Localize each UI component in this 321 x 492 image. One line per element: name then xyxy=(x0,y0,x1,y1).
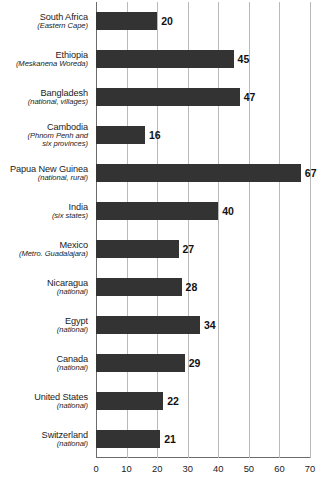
category-sublabel-line: (national) xyxy=(0,326,88,335)
category-sublabel: (six states) xyxy=(0,212,88,221)
bar xyxy=(96,50,234,68)
bar-value-label: 20 xyxy=(161,12,173,30)
bar-value-label: 34 xyxy=(204,316,216,334)
category-sublabel: (Phnom Penh andsix provinces) xyxy=(0,132,88,149)
bar xyxy=(96,164,301,182)
bar xyxy=(96,12,157,30)
category-sublabel-line: (six states) xyxy=(0,212,88,221)
category-sublabel-line: (national, rural) xyxy=(0,174,88,183)
category-sublabel: (Meskanena Woreda) xyxy=(0,60,88,69)
category-sublabel: (Metro. Guadalajara) xyxy=(0,250,88,259)
gridline-40 xyxy=(218,2,219,458)
gridline-30 xyxy=(188,2,189,458)
plot-frame xyxy=(96,2,310,458)
category-label: Nicaragua(national) xyxy=(0,278,92,297)
category-label: Bangladesh(national, villages) xyxy=(0,88,92,107)
bar-value-label: 28 xyxy=(186,278,198,296)
bar xyxy=(96,126,145,144)
bar-value-label: 47 xyxy=(244,88,256,106)
bar-value-label: 29 xyxy=(189,354,201,372)
bar-value-label: 45 xyxy=(238,50,250,68)
bar-value-label: 27 xyxy=(183,240,195,258)
x-tick-label-60: 60 xyxy=(274,463,284,474)
category-sublabel: (national) xyxy=(0,440,88,449)
x-tick-label-50: 50 xyxy=(244,463,254,474)
bar xyxy=(96,240,179,258)
gridline-10 xyxy=(127,2,128,458)
bar-value-label: 67 xyxy=(305,164,317,182)
bar xyxy=(96,278,182,296)
x-tick-label-20: 20 xyxy=(152,463,162,474)
category-sublabel: (national, rural) xyxy=(0,174,88,183)
category-label: Mexico(Metro. Guadalajara) xyxy=(0,240,92,259)
category-sublabel: (Eastern Cape) xyxy=(0,22,88,31)
x-tick-label-30: 30 xyxy=(182,463,192,474)
category-sublabel-line: (national) xyxy=(0,364,88,373)
category-sublabel-line: (Eastern Cape) xyxy=(0,22,88,31)
x-tick-label-0: 0 xyxy=(93,463,98,474)
plot-area: 204547166740272834292221 xyxy=(96,2,310,458)
category-label: India(six states) xyxy=(0,202,92,221)
bar xyxy=(96,354,185,372)
gridline-50 xyxy=(249,2,250,458)
x-tick-label-40: 40 xyxy=(213,463,223,474)
category-label: Switzerland(national) xyxy=(0,430,92,449)
x-axis: 010203040506070 xyxy=(96,460,310,482)
bar-value-label: 16 xyxy=(149,126,161,144)
category-label: South Africa(Eastern Cape) xyxy=(0,12,92,31)
category-sublabel: (national, villages) xyxy=(0,98,88,107)
category-label: Cambodia(Phnom Penh andsix provinces) xyxy=(0,122,92,149)
category-sublabel: (national) xyxy=(0,402,88,411)
bar xyxy=(96,88,240,106)
category-label: United States(national) xyxy=(0,392,92,411)
category-sublabel-line: (Meskanena Woreda) xyxy=(0,60,88,69)
category-sublabel: (national) xyxy=(0,364,88,373)
bar-value-label: 40 xyxy=(222,202,234,220)
bar xyxy=(96,430,160,448)
bar-value-label: 21 xyxy=(164,430,176,448)
bar xyxy=(96,392,163,410)
category-sublabel-line: (national) xyxy=(0,288,88,297)
category-label: Ethiopia(Meskanena Woreda) xyxy=(0,50,92,69)
x-tick-label-70: 70 xyxy=(305,463,315,474)
gridline-70 xyxy=(310,2,311,458)
category-label: Egypt(national) xyxy=(0,316,92,335)
horizontal-bar-chart: South Africa(Eastern Cape)Ethiopia(Meska… xyxy=(0,0,321,492)
category-label: Canada(national) xyxy=(0,354,92,373)
category-label-column: South Africa(Eastern Cape)Ethiopia(Meska… xyxy=(0,0,92,458)
x-tick-label-10: 10 xyxy=(121,463,131,474)
bar-value-label: 22 xyxy=(167,392,179,410)
category-sublabel-line: (national) xyxy=(0,402,88,411)
category-sublabel-line: (national, villages) xyxy=(0,98,88,107)
bar xyxy=(96,316,200,334)
category-label: Papua New Guinea(national, rural) xyxy=(0,164,92,183)
gridline-60 xyxy=(279,2,280,458)
category-sublabel: (national) xyxy=(0,326,88,335)
category-sublabel: (national) xyxy=(0,288,88,297)
category-sublabel-line: six provinces) xyxy=(0,140,88,149)
category-sublabel-line: (national) xyxy=(0,440,88,449)
category-sublabel-line: (Metro. Guadalajara) xyxy=(0,250,88,259)
gridline-20 xyxy=(157,2,158,458)
bar xyxy=(96,202,218,220)
